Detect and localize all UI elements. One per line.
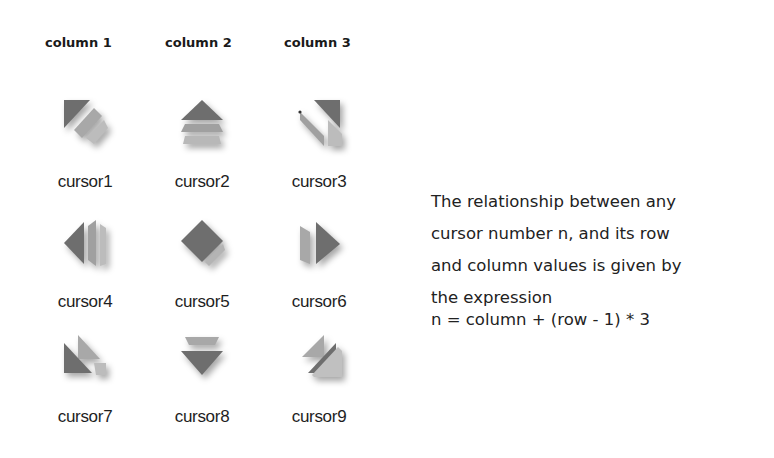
cursor-label: cursor8	[147, 407, 257, 427]
cursor-label: cursor2	[147, 172, 257, 192]
cursor-label: cursor7	[30, 407, 140, 427]
cursor-cell-7: cursor7	[30, 333, 140, 427]
arrow-right-icon	[294, 218, 344, 268]
arrow-left-icon	[60, 218, 110, 268]
cursor-label: cursor4	[30, 292, 140, 312]
cursor-cell-9: cursor9	[264, 333, 374, 427]
cursor-label: cursor1	[30, 172, 140, 192]
diamond-center-icon	[177, 218, 227, 268]
cursor-cell-6: cursor6	[264, 218, 374, 312]
column-header-2: column 2	[165, 35, 232, 50]
cursor-label: cursor9	[264, 407, 374, 427]
arrow-up-icon	[177, 98, 227, 148]
cursor-cell-2: cursor2	[147, 98, 257, 192]
description-line: The relationship between any	[431, 186, 761, 218]
arrow-up-right-icon	[294, 98, 344, 148]
cursor-cell-1: cursor1	[30, 98, 140, 192]
formula: n = column + (row - 1) * 3	[431, 310, 650, 329]
description-line: and column values is given by	[431, 250, 761, 282]
cursor-cell-5: cursor5	[147, 218, 257, 312]
arrow-down-left-icon	[60, 333, 110, 383]
description-line: cursor number n, and its row	[431, 218, 761, 250]
arrow-up-left-icon	[60, 98, 110, 148]
column-header-3: column 3	[284, 35, 351, 50]
column-header-1: column 1	[45, 35, 112, 50]
cursor-label: cursor6	[264, 292, 374, 312]
cursor-cell-4: cursor4	[30, 218, 140, 312]
arrow-down-right-icon	[294, 333, 344, 383]
cursor-label: cursor3	[264, 172, 374, 192]
cursor-label: cursor5	[147, 292, 257, 312]
cursor-cell-3: cursor3	[264, 98, 374, 192]
cursor-cell-8: cursor8	[147, 333, 257, 427]
relationship-description: The relationship between any cursor numb…	[431, 186, 761, 314]
arrow-down-icon	[177, 333, 227, 383]
